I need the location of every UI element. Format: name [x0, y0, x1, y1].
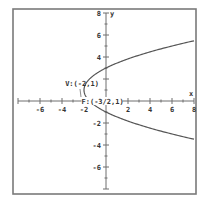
x-tick-label: 2 — [126, 106, 130, 114]
x-tick-label: 4 — [148, 106, 152, 114]
vertex-label: V:(-2,1) — [65, 80, 99, 88]
y-tick-label: 6 — [97, 32, 101, 40]
y-tick-label: 8 — [97, 10, 101, 18]
y-tick-label: 4 — [97, 54, 101, 62]
y-tick-label: -2 — [93, 120, 101, 128]
y-tick-label: -6 — [93, 164, 101, 172]
x-tick-label: 8 — [192, 106, 196, 114]
x-tick-label: -2 — [80, 106, 88, 114]
focus-label: F:(-3/2,1) — [82, 98, 124, 106]
x-tick-label: -4 — [58, 106, 66, 114]
y-tick-label: -4 — [93, 142, 101, 150]
x-tick-label: 6 — [170, 106, 174, 114]
x-tick-label: -6 — [36, 106, 44, 114]
parabola-chart: -6-4-22468864-2-4-6 x y V:(-2,1)F:(-3/2,… — [0, 0, 203, 206]
